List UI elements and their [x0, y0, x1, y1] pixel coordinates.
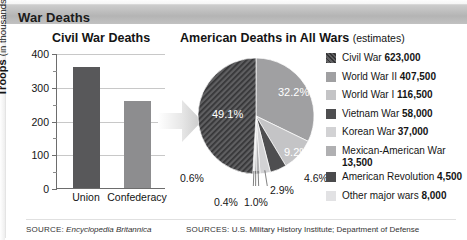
legend-item-other-major-wars: Other major wars 8,000: [326, 190, 466, 206]
legend-item-vietnam-war: Vietnam War 58,000: [326, 108, 466, 124]
source-divider: [26, 219, 456, 220]
legend-swatch: [326, 109, 336, 119]
legend-value: 37,000: [398, 126, 429, 137]
header-bar: War Deaths: [5, 4, 467, 25]
bar-source-lead: SOURCE:: [26, 225, 64, 234]
y-axis-tick-label: 300: [31, 82, 49, 94]
legend-item-civil-war: Civil War 623,000: [326, 52, 466, 68]
y-axis-minor-tick: [53, 172, 57, 173]
bar-category-label: Union: [72, 191, 99, 203]
pie-source-lead: SOURCES:: [186, 225, 229, 234]
bar-union: [73, 67, 100, 189]
page-title: War Deaths: [18, 10, 90, 25]
legend-swatch: [326, 72, 336, 82]
pie-percent-label: 0.4%: [214, 196, 238, 208]
y-axis-label-main: Troops: [0, 59, 8, 96]
legend-label: Korean War: [342, 126, 398, 137]
pie-chart-source: SOURCES: U.S. Military History Institute…: [186, 225, 419, 234]
legend-value: 13,500: [342, 157, 373, 168]
bar-source-text: Encyclopedia Britannica: [66, 225, 151, 234]
x-axis-line: [56, 188, 165, 189]
legend-item-mexican-american-war: Mexican-American War 13,500: [326, 145, 466, 169]
legend-item-korean-war: Korean War 37,000: [326, 126, 466, 142]
bar-chart-y-axis-label: Troops (in thousands): [0, 0, 8, 96]
y-axis-minor-tick: [53, 71, 57, 72]
y-axis-minor-tick: [53, 105, 57, 106]
legend-swatch: [326, 90, 336, 100]
legend-value: 623,000: [384, 52, 420, 63]
legend-label: World War I: [342, 89, 397, 100]
pie-chart-title-main: American Deaths in All Wars: [180, 31, 349, 45]
pie-chart-graphic: 49.1%32.2%9.2%4.6%2.9%1.0%0.4%0.6%: [186, 46, 326, 190]
legend-swatch: [326, 172, 336, 182]
y-axis-tick-label: 100: [31, 149, 49, 161]
pie-percent-label: 9.2%: [284, 146, 309, 158]
bar-confederacy: [124, 101, 151, 188]
bar-chart-title: Civil War Deaths: [26, 31, 176, 45]
pie-source-text: U.S. Military History Institute; Departm…: [232, 225, 420, 234]
y-axis-tick: [52, 189, 57, 190]
pie-percent-label: 0.6%: [180, 172, 204, 184]
legend-label: Other major wars: [342, 190, 421, 201]
legend-value: 4,500: [437, 171, 462, 182]
pie-percent-label: 49.1%: [212, 108, 243, 120]
infographic-page: War Deaths Civil War Deaths Troops (in t…: [0, 0, 467, 240]
y-axis-minor-tick: [53, 138, 57, 139]
y-axis-tick-label: 200: [31, 116, 49, 128]
y-axis-tick: [52, 54, 57, 55]
legend-swatch: [326, 127, 336, 137]
legend-value: 116,500: [397, 89, 433, 100]
pie-percent-label: 2.9%: [270, 184, 294, 196]
legend-item-world-war-i: World War I 116,500: [326, 89, 466, 105]
pie-percent-label: 32.2%: [278, 86, 309, 98]
legend-swatch: [326, 191, 336, 201]
legend-value: 407,500: [400, 71, 436, 82]
gridline: [56, 54, 165, 55]
y-axis-tick-label: 400: [31, 48, 49, 60]
legend-label: American Revolution: [342, 171, 437, 182]
legend-label: Civil War: [342, 52, 384, 63]
legend-label: World War II: [342, 71, 400, 82]
legend-swatch: [326, 53, 336, 63]
legend-value: 58,000: [402, 108, 433, 119]
y-axis-tick: [52, 155, 57, 156]
pie-chart-legend: Civil War 623,000World War II 407,500Wor…: [326, 52, 466, 208]
y-axis-tick: [52, 122, 57, 123]
y-axis-label-sub: (in thousands): [0, 0, 8, 56]
legend-item-american-revolution: American Revolution 4,500: [326, 171, 466, 187]
legend-item-world-war-ii: World War II 407,500: [326, 71, 466, 87]
bar-chart-plot-area: 0100200300400UnionConfederacy: [56, 54, 165, 189]
y-axis-tick-label: 0: [43, 183, 49, 195]
bar-chart-source: SOURCE: Encyclopedia Britannica: [26, 225, 151, 234]
bar-category-label: Confederacy: [107, 191, 167, 203]
legend-value: 8,000: [421, 190, 446, 201]
pie-percent-label: 1.0%: [244, 196, 268, 208]
legend-label: Vietnam War: [342, 108, 402, 119]
pie-chart-title-note: (estimates): [353, 32, 405, 44]
legend-label: Mexican-American War: [342, 145, 446, 156]
pie-chart-title: American Deaths in All Wars (estimates): [180, 31, 460, 45]
legend-swatch: [326, 146, 336, 156]
y-axis-tick: [52, 88, 57, 89]
pie-percent-label: 4.6%: [304, 172, 328, 184]
